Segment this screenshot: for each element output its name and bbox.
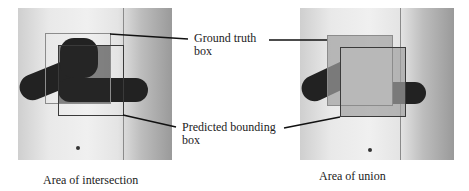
caption-intersection: Area of intersection (43, 173, 138, 188)
ground-truth-label-line2: box (194, 45, 256, 58)
caption-union: Area of union (319, 169, 386, 184)
ground-truth-label: Ground truth box (194, 32, 256, 58)
leader-lines (0, 0, 469, 191)
predicted-label: Predicted bounding box (182, 121, 276, 147)
predicted-label-line2: box (182, 134, 276, 147)
